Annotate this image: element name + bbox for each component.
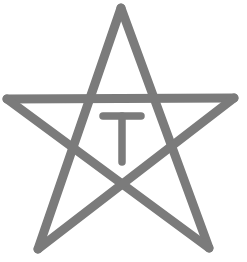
letter-t-icon [103,116,141,162]
logo: T [0,0,247,262]
star-edge-left-to-right [7,98,234,99]
pentagram-star-icon [0,0,247,262]
